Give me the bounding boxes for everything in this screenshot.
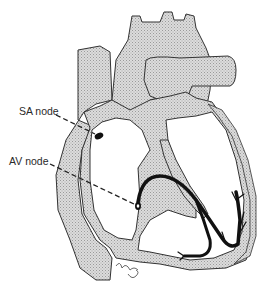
av-node-label: AV node: [9, 156, 49, 167]
sa-node-label: SA node: [19, 106, 59, 117]
artist-signature: [116, 263, 138, 277]
heart-illustration: [0, 0, 278, 292]
heart-conduction-diagram: SA node AV node: [0, 0, 278, 292]
